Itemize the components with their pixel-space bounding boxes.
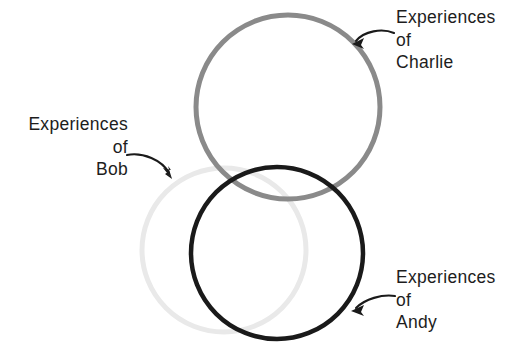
label-experiences-of-andy: Experiences of Andy [396,266,496,334]
label-bob-line3: Bob [0,158,128,181]
label-experiences-of-charlie: Experiences of Charlie [396,6,496,74]
venn-diagram-canvas: Experiences of Charlie Experiences of Bo… [0,0,521,356]
arrow-to-bob [127,154,172,179]
label-charlie-line1: Experiences [396,6,496,29]
label-charlie-line2: of [396,29,496,52]
label-bob-line2: of [0,136,128,159]
circle-charlie[interactable] [196,15,380,199]
arrow-to-andy [351,296,395,316]
label-andy-line2: of [396,289,496,312]
label-experiences-of-bob: Experiences of Bob [0,113,128,181]
label-andy-line3: Andy [396,311,496,334]
arrow-to-charlie [352,31,394,49]
label-andy-line1: Experiences [396,266,496,289]
circle-bob[interactable] [142,168,306,332]
label-charlie-line3: Charlie [396,51,496,74]
label-bob-line1: Experiences [0,113,128,136]
